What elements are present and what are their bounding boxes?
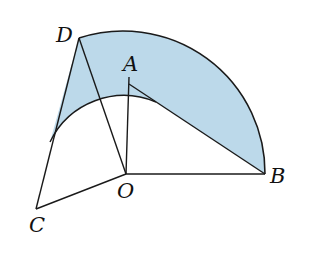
segment-OC bbox=[36, 174, 126, 209]
label-C: C bbox=[29, 213, 45, 237]
label-B: B bbox=[269, 164, 285, 188]
segment-CD bbox=[36, 38, 79, 209]
label-D: D bbox=[55, 23, 73, 47]
label-O: O bbox=[117, 179, 134, 203]
label-A: A bbox=[121, 52, 138, 76]
geometry-diagram: D A O B C bbox=[0, 0, 317, 253]
